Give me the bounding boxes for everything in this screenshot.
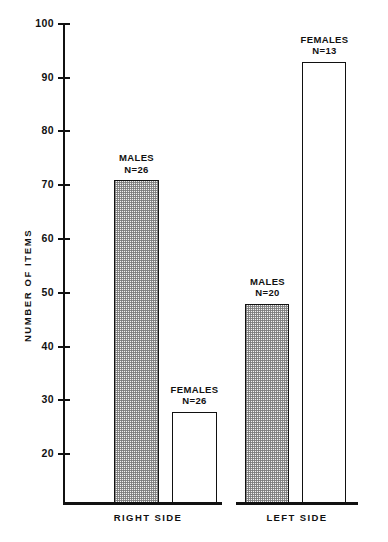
y-tick-label-20: 20 (0, 447, 54, 460)
y-tick-mark-60 (58, 238, 70, 240)
group-label-right-side: RIGHT SIDE (88, 512, 208, 523)
y-tick-label-90: 90 (0, 71, 54, 84)
bar-caption-right-side-females: FEMALES N=26 (154, 384, 235, 407)
y-tick-mark-90 (58, 77, 70, 79)
bar-caption-n: N=26 (154, 395, 235, 407)
y-tick-label-100: 100 (0, 17, 54, 30)
y-tick-mark-40 (58, 346, 70, 348)
y-tick-mark-80 (58, 130, 70, 132)
bar-caption-name: MALES (250, 276, 285, 287)
bar-caption-name: FEMALES (301, 34, 349, 45)
y-tick-mark-70 (58, 184, 70, 186)
bar-caption-n: N=20 (227, 287, 308, 299)
y-tick-mark-100 (58, 23, 70, 25)
bar-chart-figure: NUMBER OF ITEMS 100 90 80 70 60 50 40 30… (0, 0, 388, 542)
bar-caption-left-side-females: FEMALES N=13 (284, 34, 365, 57)
bar-left-side-males (245, 304, 289, 503)
y-tick-mark-50 (58, 292, 70, 294)
y-axis-line (63, 24, 65, 504)
bar-left-side-females (302, 62, 346, 503)
bar-caption-name: FEMALES (171, 384, 219, 395)
group-label-left-side: LEFT SIDE (237, 512, 357, 523)
bar-right-side-females (172, 412, 217, 503)
y-tick-mark-20 (58, 453, 70, 455)
bar-caption-left-side-males: MALES N=20 (227, 276, 308, 299)
y-tick-label-30: 30 (0, 393, 54, 406)
bar-caption-right-side-males: MALES N=26 (96, 152, 177, 175)
y-tick-label-40: 40 (0, 340, 54, 353)
y-tick-label-70: 70 (0, 178, 54, 191)
y-tick-label-50: 50 (0, 286, 54, 299)
bar-right-side-males (114, 180, 159, 503)
bar-caption-n: N=13 (284, 45, 365, 57)
y-tick-label-60: 60 (0, 232, 54, 245)
bar-caption-name: MALES (119, 152, 154, 163)
bar-caption-n: N=26 (96, 164, 177, 176)
y-tick-mark-30 (58, 399, 70, 401)
y-tick-label-80: 80 (0, 124, 54, 137)
